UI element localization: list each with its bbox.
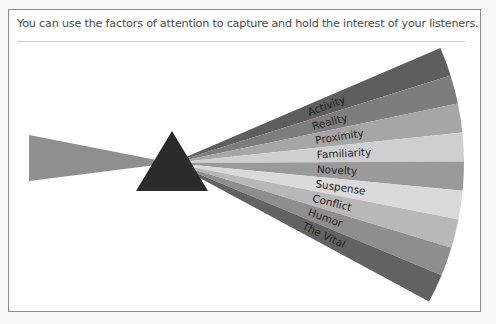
factor-label: Novelty	[317, 163, 358, 177]
prism-diagram: ActivityRealityProximityFamiliarityNovel…	[0, 0, 496, 324]
